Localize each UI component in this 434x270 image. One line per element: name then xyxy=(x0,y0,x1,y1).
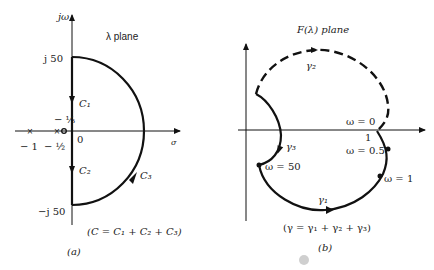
tick-neg-third: − ⅓ xyxy=(54,114,76,125)
panel-a-equation: (C = C₁ + C₂ + C₃) xyxy=(87,226,182,237)
panel-b-caption: (b) xyxy=(318,242,332,253)
f-plane-label: F(λ) plane xyxy=(296,24,349,35)
c2-arrow-icon xyxy=(69,166,75,174)
c2-label: C₂ xyxy=(79,165,91,176)
point-w05 xyxy=(386,147,391,152)
c1-arrow-icon xyxy=(69,96,75,104)
panel-a: × × jω λ plane j 50 −j 50 0 − 1 − ½ − ⅓ … xyxy=(15,11,182,257)
gamma1-label: γ₁ xyxy=(318,194,328,205)
label-w50: ω = 50 xyxy=(265,161,301,172)
pole-neg-one-icon: × xyxy=(27,126,33,137)
tick-neg-half: − ½ xyxy=(44,141,66,152)
label-w1: ω = 1 xyxy=(384,173,413,184)
c3-label: C₃ xyxy=(140,170,152,181)
gamma3-label: γ₃ xyxy=(286,141,296,152)
gamma2-label: γ₂ xyxy=(306,60,316,71)
tick-j50: j 50 xyxy=(43,53,63,64)
gamma2-arrow-icon xyxy=(311,47,318,53)
jw-axis-label: jω xyxy=(56,11,69,22)
point-w1 xyxy=(378,174,383,179)
scan-blemish xyxy=(299,255,309,265)
label-w0: ω = 0 xyxy=(346,116,375,127)
lambda-plane-label: λ plane xyxy=(106,31,139,42)
panel-a-caption: (a) xyxy=(67,246,81,257)
nyquist-diagram: × × jω λ plane j 50 −j 50 0 − 1 − ½ − ⅓ … xyxy=(0,0,434,270)
tick-neg-one: − 1 xyxy=(20,141,38,152)
sigma-axis-label: σ xyxy=(171,138,177,147)
tick-origin: 0 xyxy=(77,134,83,145)
label-w05: ω = 0.5 xyxy=(346,145,385,156)
panel-b-equation: (γ = γ₁ + γ₂ + γ₃) xyxy=(283,222,371,233)
c1-label: C₁ xyxy=(79,98,91,109)
panel-b: F(λ) plane γ₂ γ₃ γ₁ ω = 0 1 ω = 0.5 ω = … xyxy=(238,24,425,253)
tick-one: 1 xyxy=(365,132,371,143)
pole-neg-half-icon: × xyxy=(54,126,60,137)
point-w50 xyxy=(257,163,262,168)
tick-neg-j50: −j 50 xyxy=(38,206,65,217)
gamma1-arrow-icon xyxy=(326,206,334,214)
